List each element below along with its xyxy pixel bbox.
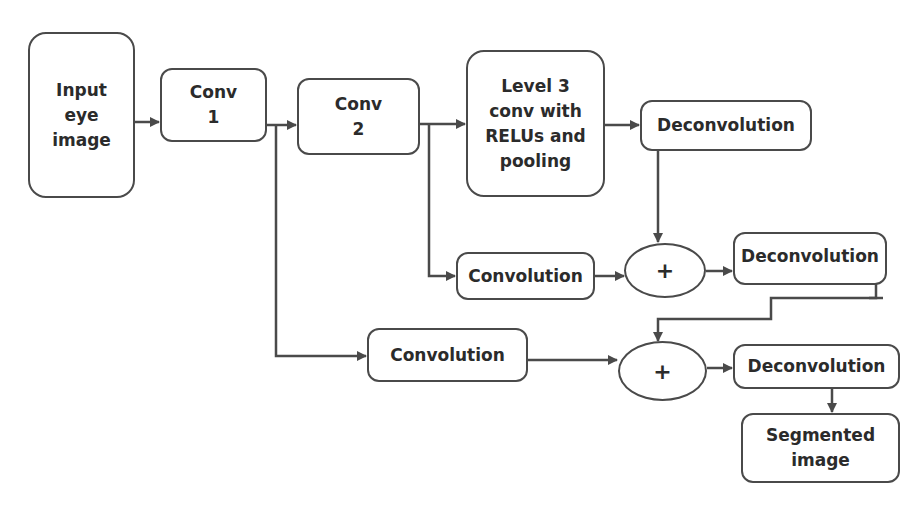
- sum-1-node: +: [624, 243, 706, 298]
- deconvolution-1-node: Deconvolution: [640, 100, 812, 151]
- input-eye-image-node: Input eye image: [28, 32, 135, 198]
- conv1-node: Conv 1: [160, 68, 267, 142]
- segmented-image-node: Segmented image: [741, 413, 900, 483]
- deconvolution-3-node: Deconvolution: [733, 344, 900, 389]
- convolution-bottom-node: Convolution: [367, 328, 528, 382]
- deconvolution-2-node: Deconvolution: [733, 232, 887, 285]
- sum-2-node: +: [618, 341, 707, 401]
- convolution-mid-node: Convolution: [456, 252, 595, 300]
- conv2-node: Conv 2: [297, 78, 420, 155]
- level3-conv-node: Level 3 conv with RELUs and pooling: [466, 50, 605, 197]
